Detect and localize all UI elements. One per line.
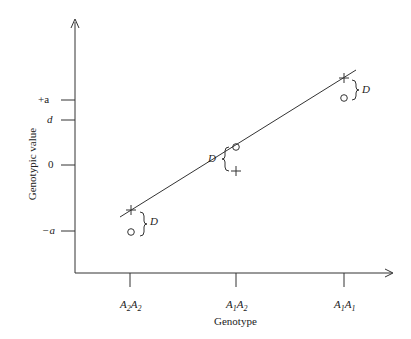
annotation-d: D bbox=[150, 215, 158, 227]
x-tick-a1a2: A1A2 bbox=[226, 298, 247, 313]
tick-zero: 0 bbox=[48, 158, 54, 170]
brace-left-icon bbox=[222, 147, 229, 171]
diagram-canvas bbox=[0, 0, 411, 339]
tick-d: d bbox=[47, 113, 53, 125]
circle-markers bbox=[128, 95, 348, 236]
y-axis-label: Genotypic value bbox=[26, 104, 38, 224]
x-tick-a2a2: A2A2 bbox=[120, 298, 141, 313]
brace-right-icon bbox=[140, 212, 147, 236]
x-tick-a1a1: A1A1 bbox=[334, 298, 355, 313]
annotation-d: D bbox=[362, 83, 370, 95]
tick-plus-a: +a bbox=[38, 93, 49, 105]
regression-line bbox=[120, 70, 356, 217]
brace-right-icon bbox=[352, 80, 359, 100]
tick-minus-a: −a bbox=[42, 224, 55, 236]
x-axis-label: Genotype bbox=[214, 315, 257, 327]
annotation-d: D bbox=[208, 152, 216, 164]
